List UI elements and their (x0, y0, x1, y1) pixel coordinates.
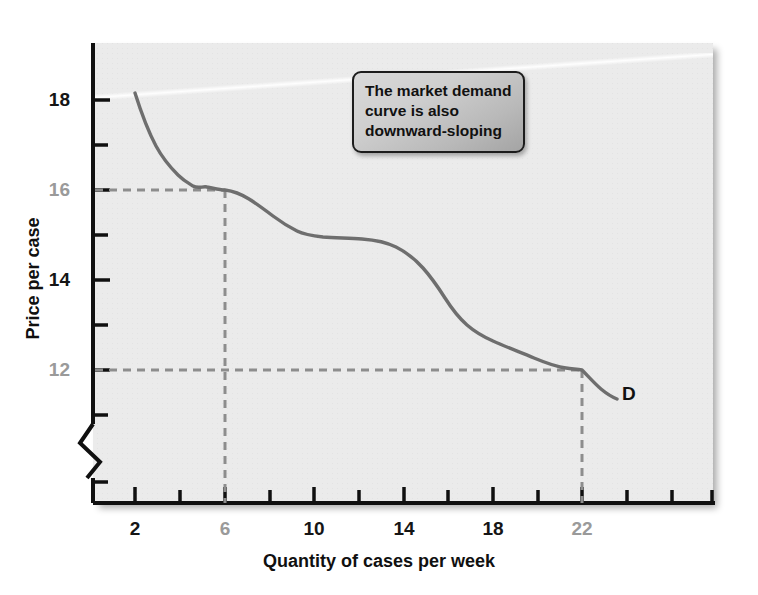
x-tick-label-2: 2 (115, 518, 155, 540)
demand-curve-figure: 18 16 14 12 2 6 10 14 18 22 Quantity of … (0, 0, 758, 595)
callout-line-2: curve is also (365, 101, 512, 121)
x-axis-ticks (135, 487, 712, 503)
callout-text-block: The market demand curve is also downward… (365, 81, 512, 141)
y-axis-title: Price per case (23, 184, 44, 374)
x-tick-label-6: 6 (205, 518, 245, 540)
x-tick-label-10: 10 (294, 518, 334, 540)
demand-curve-label: D (622, 383, 636, 405)
market-demand-callout: The market demand curve is also downward… (352, 71, 525, 153)
y-tick-label-18: 18 (28, 89, 70, 111)
x-tick-label-22: 22 (562, 518, 602, 540)
x-tick-label-14: 14 (384, 518, 424, 540)
y-axis-ticks (93, 100, 110, 482)
callout-line-1: The market demand (365, 81, 512, 101)
x-axis-title: Quantity of cases per week (0, 551, 758, 572)
callout-line-3: downward-sloping (365, 121, 512, 141)
x-tick-label-18: 18 (473, 518, 513, 540)
y-axis-break-symbol (80, 424, 100, 478)
